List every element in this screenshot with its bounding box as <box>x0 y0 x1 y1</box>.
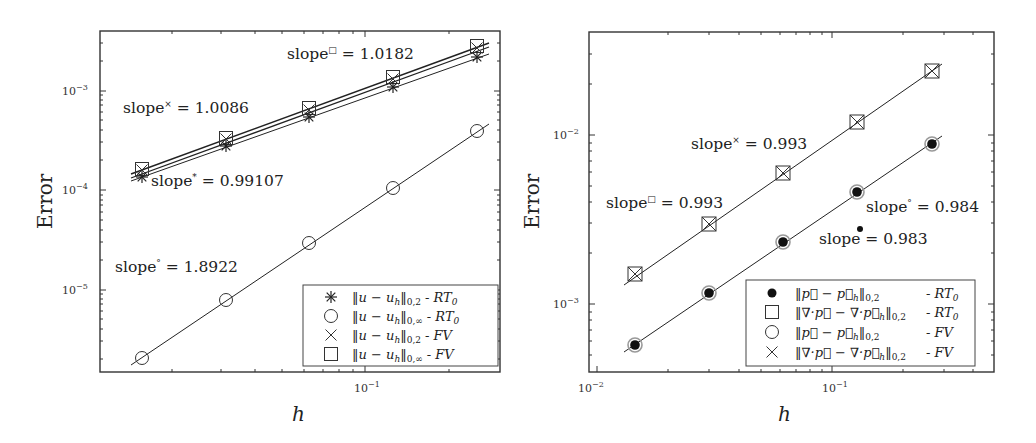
left-y-axis-title: Error <box>33 173 57 229</box>
left-ytick-1e-3: 10−3 <box>62 83 88 98</box>
right-legend-item-4: ‖∇·p⃗ − ∇·p⃗h‖0,2 <box>795 345 906 362</box>
left-slope-circle: slope° = 1.8922 <box>115 258 238 276</box>
left-legend-item-4: ‖u − uh‖0,∞- FV <box>352 347 455 364</box>
right-xtick-1e-2: 10−2 <box>578 380 604 395</box>
right-x-axis-title: h <box>778 402 791 426</box>
right-ytick-1e-3: 10−3 <box>553 296 579 311</box>
right-slope-x: slope× = 0.993 <box>691 135 807 153</box>
right-chart: 10−2 10−3 10−2 10−1 Error h slope× = 0.9… <box>520 32 994 426</box>
right-legend-method-3: - FV <box>926 325 955 340</box>
right-ytick-1e-2: 10−2 <box>553 127 579 142</box>
right-slope-square: slope□ = 0.993 <box>606 194 723 212</box>
left-ytick-1e-4: 10−4 <box>62 182 88 197</box>
left-slope-asterisk: slope* = 0.99107 <box>151 172 284 190</box>
right-slope-circle: slope° = 0.984 <box>866 198 979 216</box>
left-x-axis-title: h <box>292 402 305 426</box>
left-legend-item-2: ‖u − uh‖0,∞- RT0 <box>352 309 460 326</box>
left-ytick-1e-5: 10−5 <box>62 282 88 297</box>
right-slope-filled: slope = 0.983 <box>819 230 928 248</box>
left-chart: 10−3 10−4 10−5 10−1 Error h slope□ = 1.0… <box>33 31 500 426</box>
right-legend: ‖p⃗ − p⃗h‖0,2 - RT0 ‖∇·p⃗ − ∇·p⃗h‖0,2 - … <box>746 280 975 366</box>
figure: 10−3 10−4 10−5 10−1 Error h slope□ = 1.0… <box>0 0 1036 443</box>
left-legend-item-1: ‖u − uh‖0,2- RT0 <box>352 290 458 307</box>
left-legend-item-3: ‖u − uh‖0,2- FV <box>352 328 454 345</box>
left-xtick-1e-1: 10−1 <box>354 380 380 395</box>
right-legend-method-4: - FV <box>926 345 955 360</box>
left-legend: ‖u − uh‖0,2- RT0 ‖u − uh‖0,∞- RT0 ‖u − u… <box>303 285 498 366</box>
left-slope-x: slope× = 1.0086 <box>123 99 249 117</box>
left-slope-square: slope□ = 1.0182 <box>287 45 414 63</box>
right-y-axis-title: Error <box>520 173 544 229</box>
right-legend-item-2: ‖∇·p⃗ − ∇·p⃗h‖0,2 <box>795 305 906 322</box>
right-xtick-1e-1: 10−1 <box>822 380 848 395</box>
